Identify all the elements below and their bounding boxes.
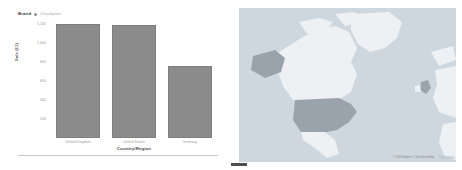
- legend-title: Brand: [18, 11, 31, 17]
- y-axis-tick-label: 200: [40, 117, 46, 121]
- panel-divider-rule: [18, 155, 218, 156]
- corner-tab-marker: [231, 163, 247, 166]
- x-axis-tick-label: United States: [106, 140, 161, 144]
- y-axis-tick-label: 800: [40, 60, 46, 64]
- world-map-graphic: [239, 8, 456, 162]
- y-axis-tick-label: 1,200: [37, 22, 46, 26]
- circle-swatch-icon: [34, 13, 37, 16]
- bar-series: [50, 24, 218, 138]
- x-axis-tick-label: United Kingdom: [50, 140, 105, 144]
- map-panel[interactable]: © 2024 Mapbox © OpenStreetMap Tableau: [231, 0, 462, 170]
- bar-slot: [50, 24, 105, 138]
- map-canvas[interactable]: © 2024 Mapbox © OpenStreetMap Tableau: [239, 8, 456, 162]
- y-axis-tick-label: 400: [40, 98, 46, 102]
- bar-mark[interactable]: [56, 24, 100, 138]
- bar-mark[interactable]: [168, 66, 212, 138]
- y-axis-tick-label: 1,000: [37, 41, 46, 45]
- bar-chart-panel[interactable]: Brand Champion Sale (£1) 2004006008001,0…: [0, 0, 231, 170]
- y-axis-ticks: 2004006008001,0001,200: [24, 24, 46, 138]
- x-axis-tick-labels: United KingdomUnited StatesGermany: [50, 140, 218, 144]
- plot-area: [50, 24, 218, 138]
- x-axis-tick-label: Germany: [162, 140, 217, 144]
- bar-slot: [162, 24, 217, 138]
- bar-mark[interactable]: [112, 25, 156, 138]
- bar-slot: [106, 24, 161, 138]
- map-attribution: © 2024 Mapbox © OpenStreetMap: [393, 156, 434, 159]
- map-logo: Tableau: [438, 155, 454, 160]
- legend-entry-label: Champion: [40, 11, 61, 17]
- y-axis-title: Sale (£1): [14, 21, 19, 61]
- legend[interactable]: Brand Champion: [18, 11, 61, 17]
- dashboard: Brand Champion Sale (£1) 2004006008001,0…: [0, 0, 462, 170]
- region-ireland: [415, 85, 421, 92]
- y-axis-tick-label: 600: [40, 79, 46, 83]
- x-axis-title: Country/Region: [50, 146, 218, 151]
